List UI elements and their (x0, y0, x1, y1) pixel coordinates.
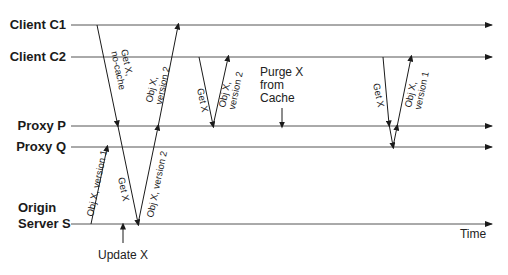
sequence-diagram: Client C1 Client C2 Proxy P Proxy Q Orig… (0, 0, 508, 275)
label-obj-x-v2-c2: Obj X, version 2 (216, 68, 245, 110)
message-arrow-obj-x-v1-q-p (393, 127, 397, 147)
update-note: Update X (98, 248, 148, 262)
label-obj-x-v2-p: Obj X, version 2 (144, 150, 169, 218)
svg-text:version 2: version 2 (153, 65, 172, 105)
svg-text:Get X: Get X (195, 87, 211, 114)
entity-label-client-c2: Client C2 (10, 49, 66, 64)
message-arrow-get-x-p-q (389, 124, 393, 146)
svg-text:Get X: Get X (371, 82, 387, 109)
svg-text:version 1: version 1 (412, 70, 431, 110)
purge-note-line2: from (260, 78, 284, 92)
svg-text:Obj X, version 1: Obj X, version 1 (84, 149, 109, 217)
label-obj-x-v1-c2: Obj X, version 1 (402, 68, 431, 110)
purge-note-line3: Cache (260, 91, 295, 105)
entity-label-proxy-q: Proxy Q (16, 139, 66, 154)
svg-text:Obj X, version 2: Obj X, version 2 (144, 150, 169, 218)
entity-label-server-s: Server S (18, 216, 71, 231)
label-get-x-no-cache: Get X, no-cache (109, 48, 138, 91)
purge-note-line1: Purge X (260, 65, 303, 79)
time-axis-label: Time (460, 227, 487, 241)
svg-text:version 2: version 2 (226, 70, 245, 110)
message-arrow-get-x-p-s (118, 124, 139, 223)
entity-label-client-c1: Client C1 (10, 17, 66, 32)
entity-label-proxy-p: Proxy P (18, 118, 67, 133)
entity-label-origin: Origin (18, 200, 56, 215)
diagram-canvas: Client C1 Client C2 Proxy P Proxy Q Orig… (0, 0, 508, 275)
messages (91, 25, 411, 243)
label-obj-x-v1-q: Obj X, version 1 (84, 149, 109, 217)
label-get-x-c2-q: Get X (371, 82, 387, 109)
label-get-x-c2-p: Get X (195, 87, 211, 114)
label-obj-x-v2-c1: Obj X, version 2 (143, 63, 172, 105)
